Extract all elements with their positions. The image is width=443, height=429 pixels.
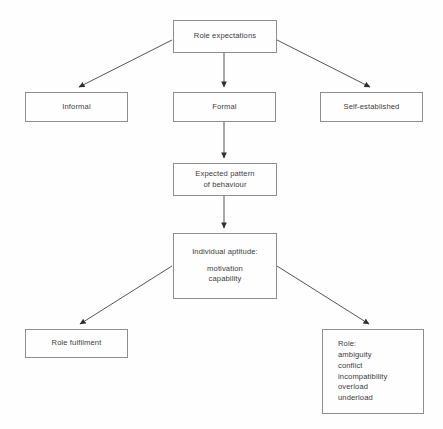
node-expected-pattern-line-1: of behaviour — [203, 180, 246, 191]
node-expected-pattern-line-0: Expected pattern — [195, 169, 254, 180]
node-role-fulfilment-line-0: Role fulfilment — [52, 338, 102, 349]
edge-role-expectations-to-self-established — [277, 40, 370, 87]
node-self-established-line-0: Self-established — [344, 102, 400, 113]
node-role-problems-line-5: underload — [338, 393, 373, 404]
node-individual-aptitude: Individual aptitude: motivation capabili… — [173, 233, 277, 299]
node-role-problems-line-1: ambiguity — [338, 350, 372, 361]
node-individual-aptitude-line-2: motivation — [207, 264, 243, 275]
node-individual-aptitude-line-0: Individual aptitude: — [192, 247, 258, 258]
node-formal: Formal — [173, 92, 276, 122]
edge-individual-aptitude-to-role-fulfilment — [80, 266, 172, 324]
node-self-established: Self-established — [320, 92, 423, 122]
node-formal-line-0: Formal — [212, 102, 236, 113]
node-role-expectations-line-0: Role expectations — [194, 31, 256, 42]
edge-individual-aptitude-to-role-problems — [277, 266, 369, 324]
node-role-expectations: Role expectations — [173, 20, 277, 53]
node-role-problems: Role: ambiguity conflict incompatibility… — [322, 329, 424, 414]
node-role-problems-line-3: incompatibility — [338, 372, 388, 383]
node-role-problems-line-4: overload — [338, 382, 368, 393]
node-informal: Informal — [25, 92, 128, 122]
edge-role-expectations-to-informal — [79, 40, 172, 87]
node-individual-aptitude-line-3: capability — [209, 274, 242, 285]
node-role-fulfilment: Role fulfilment — [25, 329, 128, 358]
node-informal-line-0: Informal — [62, 102, 90, 113]
node-expected-pattern-of-behaviour: Expected pattern of behaviour — [173, 163, 277, 196]
node-role-problems-line-2: conflict — [338, 361, 363, 372]
role-expectations-diagram: Role expectations Informal Formal Self-e… — [0, 0, 443, 429]
node-role-problems-line-0: Role: — [338, 339, 356, 350]
